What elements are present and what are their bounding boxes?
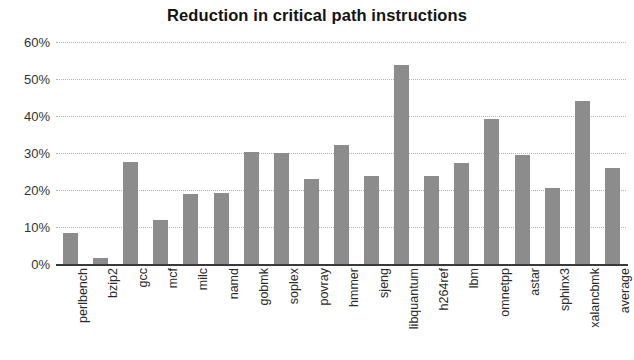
bar-slot	[387, 42, 417, 264]
bar-slot	[357, 42, 387, 264]
bar-slot	[86, 42, 116, 264]
bar[interactable]	[605, 168, 620, 264]
bar-slot	[56, 42, 86, 264]
bar-slot	[568, 42, 598, 264]
y-axis-tick-label: 40%	[2, 109, 50, 124]
y-axis-tick-label: 10%	[2, 220, 50, 235]
x-axis-tick-slot: libquantum	[387, 268, 417, 360]
x-axis-tick-slot: astar	[508, 268, 538, 360]
bar-slot	[146, 42, 176, 264]
bar-slot	[477, 42, 507, 264]
x-axis-tick-slot: mcf	[146, 268, 176, 360]
chart-title: Reduction in critical path instructions	[0, 6, 634, 25]
bar-slot	[116, 42, 146, 264]
bar[interactable]	[153, 220, 168, 264]
x-axis-line	[56, 264, 628, 266]
bar-slot	[447, 42, 477, 264]
x-axis-tick-label: average	[619, 268, 632, 313]
x-axis-tick-slot: bzip2	[86, 268, 116, 360]
bar-slot	[207, 42, 237, 264]
bar-slot	[598, 42, 628, 264]
plot-area	[56, 42, 626, 264]
x-axis-tick-slot: average	[598, 268, 628, 360]
y-axis-tick-label: 30%	[2, 146, 50, 161]
y-axis: 60%50%40%30%20%10%0%	[0, 42, 50, 264]
bar[interactable]	[214, 193, 229, 264]
bar[interactable]	[545, 188, 560, 264]
bar-slot	[176, 42, 206, 264]
y-axis-tick-label: 50%	[2, 72, 50, 87]
bar-slot	[417, 42, 447, 264]
y-axis-tick-label: 60%	[2, 35, 50, 50]
x-axis-tick-slot: povray	[297, 268, 327, 360]
bar[interactable]	[394, 65, 409, 264]
x-axis-tick-slot: perlbench	[56, 268, 86, 360]
x-axis-tick-slot: omnetpp	[477, 268, 507, 360]
bar[interactable]	[274, 153, 289, 264]
bar[interactable]	[304, 179, 319, 264]
bar[interactable]	[424, 176, 439, 264]
x-axis-tick-slot: hmmer	[327, 268, 357, 360]
bar-chart: Reduction in critical path instructions …	[0, 0, 634, 360]
x-axis-tick-slot: milc	[176, 268, 206, 360]
y-axis-tick-label: 20%	[2, 183, 50, 198]
bar[interactable]	[454, 163, 469, 264]
x-axis-tick-slot: h264ref	[417, 268, 447, 360]
bar[interactable]	[575, 101, 590, 264]
bar[interactable]	[63, 233, 78, 264]
bar-slot	[297, 42, 327, 264]
bar-slot	[327, 42, 357, 264]
bar[interactable]	[244, 152, 259, 264]
x-axis-tick-slot: soplex	[267, 268, 297, 360]
x-axis-tick-slot: sjeng	[357, 268, 387, 360]
bar-slot	[237, 42, 267, 264]
bar-slot	[508, 42, 538, 264]
x-axis-tick-slot: sphinx3	[538, 268, 568, 360]
bar[interactable]	[484, 119, 499, 264]
bar[interactable]	[364, 176, 379, 264]
x-axis-tick-slot: xalancbmk	[568, 268, 598, 360]
x-axis-tick-slot: namd	[207, 268, 237, 360]
bar[interactable]	[183, 194, 198, 264]
x-axis-tick-slot: lbm	[447, 268, 477, 360]
x-axis: perlbenchbzip2gccmcfmilcnamdgobmksoplexp…	[56, 268, 628, 360]
bar-slot	[538, 42, 568, 264]
bar[interactable]	[334, 145, 349, 264]
x-axis-tick-slot: gcc	[116, 268, 146, 360]
bar[interactable]	[515, 155, 530, 264]
bar[interactable]	[123, 162, 138, 264]
y-axis-tick-label: 0%	[2, 257, 50, 272]
x-axis-tick-slot: gobmk	[237, 268, 267, 360]
bar-slot	[267, 42, 297, 264]
